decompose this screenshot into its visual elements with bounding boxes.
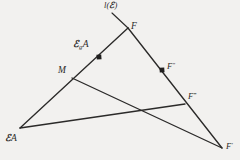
label-f1-prime: ′ — [231, 141, 232, 148]
label-line-l: l(ℰ) — [104, 1, 117, 10]
label-line-l-suffix: ) — [115, 0, 118, 10]
label-f3-prime: ‴ — [193, 91, 196, 98]
marker-point-fdoubleprime — [159, 67, 164, 72]
label-point-m: M — [58, 66, 66, 76]
segment-right-edge — [128, 28, 222, 148]
label-point-f-double-prime: F″ — [167, 62, 175, 71]
diagram-canvas — [0, 0, 240, 160]
label-f2-prime: ″ — [172, 61, 175, 68]
label-point-ega: ℰgA — [73, 39, 89, 50]
marker-point-ega — [96, 54, 101, 59]
label-point-ega-rest: A — [83, 39, 89, 49]
line-l-extension — [112, 13, 128, 28]
geometry-figure: l(ℰ) F ℰgA M F″ F‴ ℰA F′ — [0, 0, 240, 160]
label-point-f: F — [131, 22, 137, 32]
label-point-f-prime: F′ — [226, 142, 233, 151]
segment-transversal-m-fprime — [72, 78, 222, 148]
segment-base-ea-ftriple — [20, 104, 185, 128]
label-point-ea-rest: A — [11, 133, 17, 143]
label-point-ea: ℰA — [5, 133, 17, 144]
label-point-f-triple-prime: F‴ — [188, 92, 196, 101]
